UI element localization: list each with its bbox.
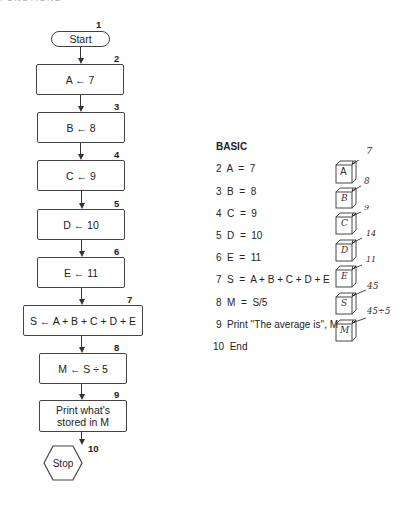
process-label: B ← 8 (66, 122, 95, 134)
page-header: FUNCTIONS (0, 0, 62, 3)
output-box: Print what's stored in M (39, 400, 127, 432)
memory-label: D (341, 245, 348, 255)
process-label: A ← 7 (66, 74, 95, 86)
process-box-b: B ← 8 (37, 112, 125, 143)
code-line: 8 M = S/5 (216, 297, 267, 308)
memory-value: 9 (364, 203, 369, 212)
code-line: 3 B = 8 (216, 186, 256, 197)
connector (80, 95, 81, 106)
step-number: 3 (114, 101, 119, 112)
process-label: C ← 9 (66, 170, 96, 182)
step-number: 8 (114, 342, 119, 353)
code-line: 10 End (213, 341, 247, 352)
basic-title: BASIC (216, 141, 247, 152)
stop-label: Stop (43, 445, 83, 481)
memory-value: 8 (364, 176, 370, 186)
code-line: 2 A = 7 (216, 163, 255, 174)
memory-label: A (340, 166, 347, 177)
connector (81, 240, 82, 251)
step-number: 9 (114, 389, 119, 400)
step-number: 4 (114, 149, 119, 160)
process-box-c: C ← 9 (37, 160, 125, 191)
connector (80, 143, 81, 154)
process-label: E ← 11 (64, 267, 98, 279)
memory-label: C (341, 218, 348, 228)
step-number: 5 (114, 198, 119, 209)
memory-label: M (340, 325, 349, 335)
process-box-d: D ← 10 (37, 209, 125, 240)
code-line: 7 S = A + B + C + D + E (216, 274, 330, 285)
memory-label: E (341, 271, 348, 281)
connector (81, 191, 82, 203)
start-terminal: Start (51, 31, 110, 47)
process-box-a: A ← 7 (36, 64, 124, 95)
step-number: 6 (114, 246, 119, 257)
process-box-sum: S ← A + B + C + D + E (23, 305, 143, 336)
memory-value: 45 (367, 281, 378, 291)
memory-value: 14 (366, 229, 376, 238)
connector (81, 288, 82, 299)
memory-cubes-icon (334, 160, 394, 350)
process-label: S ← A + B + C + D + E (30, 315, 136, 327)
step-number: 2 (114, 53, 119, 64)
process-label: M ← S ÷ 5 (58, 363, 108, 375)
memory-value: 7 (366, 145, 372, 156)
step-number: 7 (127, 294, 132, 305)
code-line: 5 D = 10 (216, 230, 262, 241)
process-label: D ← 10 (63, 219, 99, 231)
connector (81, 384, 82, 394)
memory-value: 11 (366, 255, 376, 264)
process-box-e: E ← 11 (37, 257, 125, 288)
memory-label: B (341, 193, 348, 203)
start-label: Start (69, 33, 91, 45)
step-number: 10 (88, 443, 99, 454)
code-line: 6 E = 11 (216, 252, 261, 263)
process-box-mean: M ← S ÷ 5 (39, 353, 127, 384)
memory-label: S (341, 298, 347, 308)
step-number: 1 (96, 19, 101, 30)
process-label: Print what's stored in M (54, 404, 112, 428)
memory-value: 45÷5 (367, 306, 390, 316)
code-line: 4 C = 9 (216, 208, 257, 219)
code-line: 9 Print ''The average is'', M (216, 319, 338, 330)
connector (81, 336, 82, 347)
